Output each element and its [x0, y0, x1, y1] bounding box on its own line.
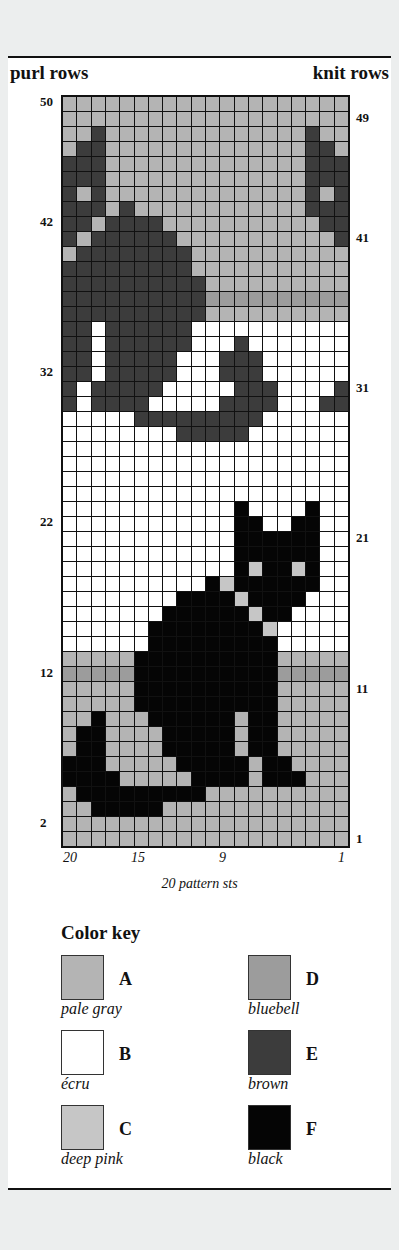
chart-cell: [63, 547, 76, 561]
chart-cell: [206, 322, 219, 336]
chart-cell: [306, 637, 319, 651]
chart-cell: [220, 472, 233, 486]
chart-cell: [220, 637, 233, 651]
chart-cell: [177, 397, 190, 411]
chart-cell: [120, 652, 133, 666]
chart-cell: [106, 457, 119, 471]
chart-cell: [77, 562, 90, 576]
chart-cell: [206, 427, 219, 441]
chart-cell: [335, 772, 348, 786]
chart-cell: [292, 622, 305, 636]
chart-cell: [206, 667, 219, 681]
chart-cell: [320, 322, 333, 336]
chart-cell: [192, 397, 205, 411]
chart-cell: [320, 787, 333, 801]
chart-cell: [320, 592, 333, 606]
chart-cell: [306, 697, 319, 711]
chart-cell: [77, 367, 90, 381]
chart-cell: [77, 202, 90, 216]
chart-cell: [177, 727, 190, 741]
chart-cell: [306, 412, 319, 426]
chart-cell: [63, 532, 76, 546]
chart-cell: [235, 502, 248, 516]
chart-cell: [135, 127, 148, 141]
chart-cell: [206, 787, 219, 801]
chart-cell: [292, 262, 305, 276]
chart-cell: [92, 607, 105, 621]
chart-cell: [292, 292, 305, 306]
chart-cell: [235, 487, 248, 501]
chart-cell: [192, 412, 205, 426]
chart-cell: [135, 652, 148, 666]
chart-cell: [106, 307, 119, 321]
chart-cell: [292, 637, 305, 651]
chart-cell: [92, 757, 105, 771]
chart-cell: [263, 667, 276, 681]
chart-cell: [92, 787, 105, 801]
chart-cell: [163, 637, 176, 651]
chart-cell: [177, 697, 190, 711]
chart-cell: [120, 232, 133, 246]
chart-cell: [220, 517, 233, 531]
chart-cell: [278, 247, 291, 261]
chart-cell: [135, 727, 148, 741]
chart-cell: [320, 457, 333, 471]
chart-cell: [292, 277, 305, 291]
chart-cell: [320, 337, 333, 351]
chart-cell: [263, 757, 276, 771]
chart-cell: [120, 142, 133, 156]
chart-cell: [77, 472, 90, 486]
chart-cell: [63, 247, 76, 261]
chart-cell: [235, 172, 248, 186]
chart-cell: [335, 682, 348, 696]
chart-cell: [235, 532, 248, 546]
chart-cell: [177, 157, 190, 171]
chart-cell: [335, 607, 348, 621]
chart-cell: [135, 592, 148, 606]
chart-cell: [263, 592, 276, 606]
chart-cell: [235, 307, 248, 321]
chart-cell: [263, 787, 276, 801]
chart-cell: [249, 157, 262, 171]
chart-cell: [149, 367, 162, 381]
chart-cell: [249, 262, 262, 276]
chart-cell: [306, 817, 319, 831]
chart-cell: [249, 172, 262, 186]
chart-cell: [135, 232, 148, 246]
chart-cell: [177, 127, 190, 141]
chart-cell: [306, 337, 319, 351]
chart-cell: [292, 442, 305, 456]
chart-cell: [63, 817, 76, 831]
chart-cell: [77, 787, 90, 801]
color-name: écru: [61, 1075, 89, 1093]
chart-cell: [135, 97, 148, 111]
chart-cell: [92, 232, 105, 246]
chart-cell: [92, 127, 105, 141]
chart-cell: [235, 622, 248, 636]
color-swatch-b: [61, 1030, 104, 1075]
chart-cell: [235, 667, 248, 681]
chart-cell: [278, 622, 291, 636]
chart-cell: [306, 757, 319, 771]
chart-cell: [149, 562, 162, 576]
chart-cell: [278, 757, 291, 771]
chart-cell: [106, 262, 119, 276]
chart-cell: [306, 472, 319, 486]
chart-cell: [206, 592, 219, 606]
chart-cell: [77, 112, 90, 126]
chart-cell: [278, 637, 291, 651]
chart-cell: [177, 757, 190, 771]
chart-cell: [235, 727, 248, 741]
chart-cell: [220, 307, 233, 321]
chart-cell: [92, 622, 105, 636]
chart-cell: [220, 502, 233, 516]
chart-cell: [120, 682, 133, 696]
chart-cell: [63, 757, 76, 771]
chart-cell: [163, 742, 176, 756]
chart-cell: [320, 697, 333, 711]
chart-cell: [263, 502, 276, 516]
chart-cell: [320, 802, 333, 816]
chart-cell: [135, 802, 148, 816]
chart-cell: [335, 367, 348, 381]
chart-cell: [206, 397, 219, 411]
